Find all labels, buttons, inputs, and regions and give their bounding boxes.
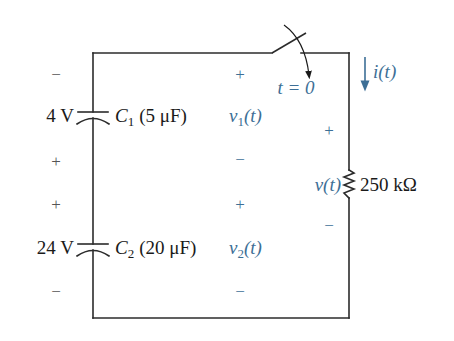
switch <box>272 25 309 75</box>
c1-subscript: 1 <box>128 114 135 129</box>
switch-time-label: t = 0 <box>277 77 315 98</box>
c2-value: (20 μF) <box>139 237 196 259</box>
c1-polarity-top: − <box>51 65 61 84</box>
c2-voltage-label: 24 V <box>37 237 74 258</box>
resistor-value-label: 250 kΩ <box>360 174 417 195</box>
resistor-250k <box>344 170 354 198</box>
v-polarity-bottom: − <box>324 216 334 235</box>
circuit-diagram: − + + − 4 V C1(5 μF) 24 V C2(20 μF) + v1… <box>0 0 454 341</box>
v2-polarity-bottom: − <box>235 282 245 301</box>
c2-polarity-bottom: − <box>51 282 61 301</box>
v2-arg: (t) <box>244 237 262 259</box>
c2-name-label: C2(20 μF) <box>115 237 196 261</box>
v1-label: v1(t) <box>229 105 262 129</box>
v1-polarity-bottom: − <box>235 150 245 169</box>
v1-arg: (t) <box>244 105 262 127</box>
c1-name-label: C1(5 μF) <box>115 105 187 129</box>
switch-motion-arrow <box>284 25 309 75</box>
c1-voltage-label: 4 V <box>46 105 74 126</box>
v2-label: v2(t) <box>229 237 262 261</box>
v-label: v(t) <box>315 174 341 196</box>
v1-polarity-top: + <box>235 65 245 84</box>
v-polarity-top: + <box>324 121 334 140</box>
v2-polarity-top: + <box>235 195 245 214</box>
current-label: i(t) <box>373 61 396 83</box>
switch-blade <box>272 33 306 53</box>
c1-value: (5 μF) <box>139 105 187 127</box>
c2-polarity-top: + <box>51 195 61 214</box>
c2-subscript: 2 <box>128 246 135 261</box>
c1-symbol: C <box>115 105 128 126</box>
c1-polarity-bottom: + <box>51 152 61 171</box>
c2-symbol: C <box>115 237 128 258</box>
